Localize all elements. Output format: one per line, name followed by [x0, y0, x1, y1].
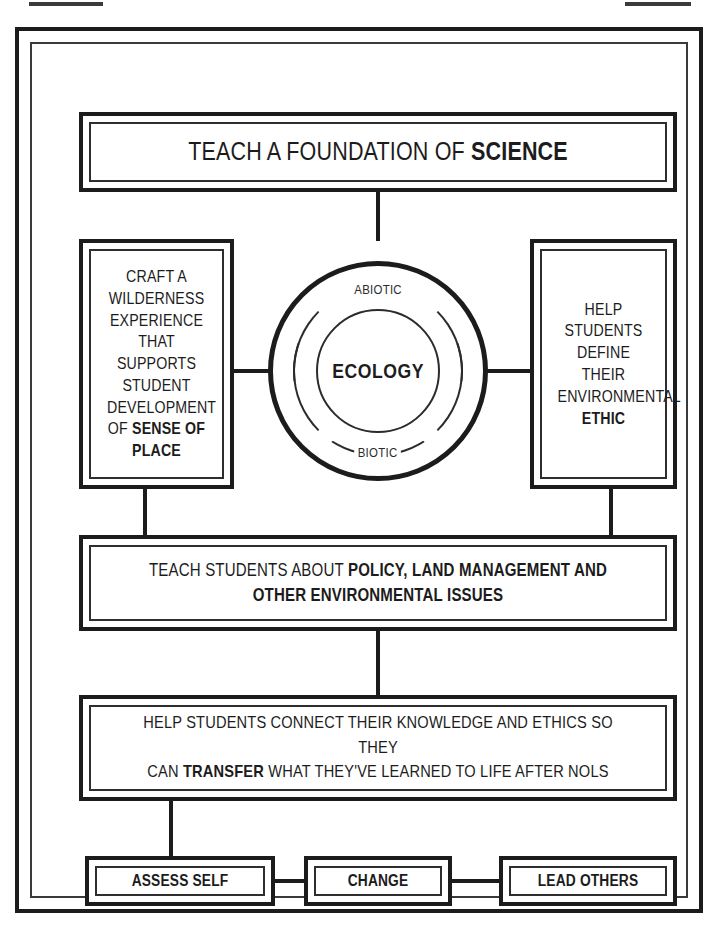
node-assess-self-inner-border: ASSESS SELF	[95, 866, 265, 896]
node-assess-self: ASSESS SELF	[85, 856, 275, 906]
node-policy-label: TEACH STUDENTS ABOUT POLICY, LAND MANAGE…	[131, 558, 625, 609]
node-policy-inner-border: TEACH STUDENTS ABOUT POLICY, LAND MANAGE…	[89, 545, 667, 621]
connector-science-to-ecology	[376, 192, 380, 241]
node-transfer-label: HELP STUDENTS CONNECT THEIR KNOWLEDGE AN…	[131, 711, 625, 785]
ecology-abiotic-label: ABIOTIC	[351, 282, 406, 297]
connector-change-to-lead-others	[452, 879, 499, 883]
connector-sense-of-place-to-ecology	[234, 369, 271, 373]
connector-policy-to-transfer	[376, 631, 380, 695]
node-assess-self-label: ASSESS SELF	[109, 872, 252, 891]
connector-sense-of-place-to-policy	[143, 489, 147, 535]
node-science-inner-border: TEACH A FOUNDATION OF SCIENCE	[89, 122, 667, 182]
node-science-label: TEACH A FOUNDATION OF SCIENCE	[131, 137, 625, 167]
ecology-core-label: ECOLOGY	[332, 360, 424, 383]
node-change-label: CHANGE	[325, 872, 432, 891]
connector-ecology-to-ethic	[485, 369, 532, 373]
node-help-students-connect-knowledge: HELP STUDENTS CONNECT THEIR KNOWLEDGE AN…	[79, 695, 677, 801]
node-teach-a-foundation-of-science: TEACH A FOUNDATION OF SCIENCE	[79, 112, 677, 192]
diagram-outer-frame: TEACH A FOUNDATION OF SCIENCE CRAFT A WI…	[15, 27, 703, 913]
node-transfer-inner-border: HELP STUDENTS CONNECT THEIR KNOWLEDGE AN…	[89, 705, 667, 791]
node-change: CHANGE	[304, 856, 452, 906]
node-lead-others-label: LEAD OTHERS	[522, 872, 654, 891]
node-lead-others: LEAD OTHERS	[499, 856, 677, 906]
node-ethic-label: HELP STUDENTS DEFINE THEIR ENVIRONMENTAL…	[551, 299, 657, 430]
node-help-students-define-ethic: HELP STUDENTS DEFINE THEIR ENVIRONMENTAL…	[530, 239, 677, 489]
node-ethic-inner-border: HELP STUDENTS DEFINE THEIR ENVIRONMENTAL…	[540, 249, 667, 479]
top-crop-artifact-left	[29, 2, 103, 6]
node-sense-of-place-inner-border: CRAFT A WILDERNESS EXPERIENCE THAT SUPPO…	[89, 249, 224, 479]
node-change-inner-border: CHANGE	[314, 866, 442, 896]
node-teach-students-about-policy: TEACH STUDENTS ABOUT POLICY, LAND MANAGE…	[79, 535, 677, 631]
node-lead-others-inner-border: LEAD OTHERS	[509, 866, 667, 896]
connector-assess-self-to-change	[275, 879, 304, 883]
top-crop-artifact-right	[625, 2, 691, 6]
ecology-biotic-label: BIOTIC	[355, 445, 402, 460]
connector-ethic-to-policy	[609, 489, 613, 535]
node-craft-a-wilderness-experience: CRAFT A WILDERNESS EXPERIENCE THAT SUPPO…	[79, 239, 234, 489]
ecology-biotic-label-wrap: BIOTIC	[268, 445, 488, 460]
ecology-inner-circle: ECOLOGY	[316, 309, 440, 433]
connector-transfer-to-assess-self	[169, 801, 173, 856]
node-sense-of-place-label: CRAFT A WILDERNESS EXPERIENCE THAT SUPPO…	[100, 266, 213, 462]
ecology-abiotic-label-wrap: ABIOTIC	[268, 282, 488, 297]
ecology-circle-group: ABIOTIC BIOTIC ECOLOGY	[268, 261, 488, 481]
